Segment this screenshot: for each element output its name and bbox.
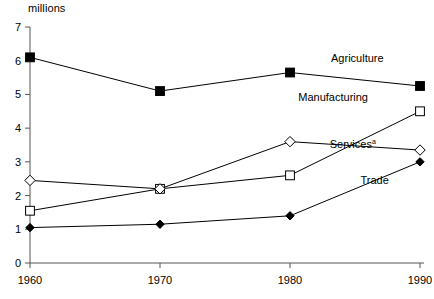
data-point-trade-1990: [416, 158, 424, 166]
data-point-manufacturing-1980: [286, 171, 295, 180]
data-point-agriculture-1960: [26, 53, 35, 62]
data-point-services-1990: [415, 145, 425, 155]
data-point-manufacturing-1960: [26, 206, 35, 215]
series-line-trade: [30, 162, 420, 228]
data-point-trade-1980: [286, 212, 294, 220]
data-point-agriculture-1970: [156, 87, 165, 96]
series-label-manufacturing: Manufacturing: [298, 91, 368, 103]
x-tick-label-1960: 1960: [18, 274, 42, 286]
y-tick-label-0: 0: [15, 257, 21, 269]
y-tick-label-7: 7: [15, 21, 21, 33]
footnote-marker-services: a: [372, 138, 376, 145]
y-tick-label-5: 5: [15, 88, 21, 100]
series-label-trade: Trade: [360, 174, 388, 186]
data-point-trade-1960: [26, 223, 34, 231]
x-tick-label-1990: 1990: [408, 274, 432, 286]
data-point-agriculture-1990: [416, 82, 425, 91]
x-tick-label-1980: 1980: [278, 274, 302, 286]
data-point-agriculture-1980: [286, 68, 295, 77]
y-tick-label-1: 1: [15, 223, 21, 235]
series-label-agriculture: Agriculture: [331, 52, 384, 64]
y-tick-label-6: 6: [15, 55, 21, 67]
series-line-manufacturing: [30, 111, 420, 210]
data-point-services-1960: [25, 175, 35, 185]
data-point-services-1980: [285, 136, 295, 146]
line-chart: millions 012345671960197019801990Agricul…: [0, 0, 434, 299]
y-tick-label-4: 4: [15, 122, 21, 134]
y-tick-label-2: 2: [15, 190, 21, 202]
y-tick-label-3: 3: [15, 156, 21, 168]
data-point-trade-1970: [156, 220, 164, 228]
x-tick-label-1970: 1970: [148, 274, 172, 286]
chart-canvas: 012345671960197019801990AgricultureManuf…: [0, 0, 434, 299]
data-point-manufacturing-1990: [416, 107, 425, 116]
series-label-services: Servicesa: [330, 138, 376, 150]
